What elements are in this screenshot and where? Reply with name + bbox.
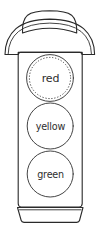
canvas: red yellow green xyxy=(0,0,100,231)
lamp-red-label: red xyxy=(42,72,59,85)
traffic-light-drawing: red yellow green xyxy=(0,0,100,231)
lamp-red[interactable]: red xyxy=(27,55,74,102)
lamp-yellow-label: yellow xyxy=(36,121,66,132)
base-plate xyxy=(18,208,84,223)
visor-hood xyxy=(5,19,95,54)
lamp-yellow[interactable]: yellow xyxy=(27,103,73,149)
lamp-green-label: green xyxy=(37,169,64,180)
lamp-green[interactable]: green xyxy=(27,151,73,197)
